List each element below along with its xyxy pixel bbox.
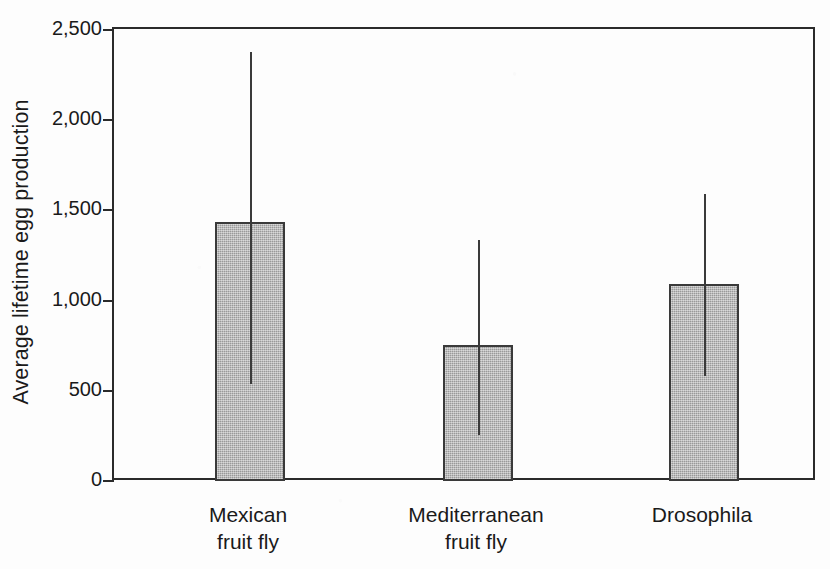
y-axis-tick-label: 2,500 — [34, 18, 102, 38]
plot-area — [112, 27, 815, 480]
y-axis-tick-label: 0 — [34, 469, 102, 489]
y-axis-tick-labels: 05001,0001,5002,0002,500 — [34, 0, 102, 569]
chart-figure: Average lifetime egg production 05001,00… — [0, 0, 830, 569]
y-axis-tick-mark — [103, 480, 114, 482]
y-axis-tick-label: 1,000 — [34, 289, 102, 309]
error-bar — [704, 194, 706, 376]
y-axis-tick-label: 2,000 — [34, 108, 102, 128]
y-axis-tick-mark — [103, 390, 114, 392]
error-bar — [250, 52, 252, 384]
error-bar — [478, 240, 480, 435]
y-axis-tick-label: 1,500 — [34, 198, 102, 218]
y-axis-tick-mark — [103, 119, 114, 121]
plot-inner — [114, 29, 813, 478]
x-axis-category-label: Mexican fruit fly — [209, 501, 287, 556]
y-axis-tick-mark — [103, 209, 114, 211]
y-axis-tick-mark — [103, 29, 114, 31]
x-axis-category-label: Mediterranean fruit fly — [408, 501, 543, 556]
y-axis-tick-label: 500 — [34, 379, 102, 399]
x-axis-category-label: Drosophila — [652, 501, 752, 528]
y-axis-tick-mark — [103, 300, 114, 302]
